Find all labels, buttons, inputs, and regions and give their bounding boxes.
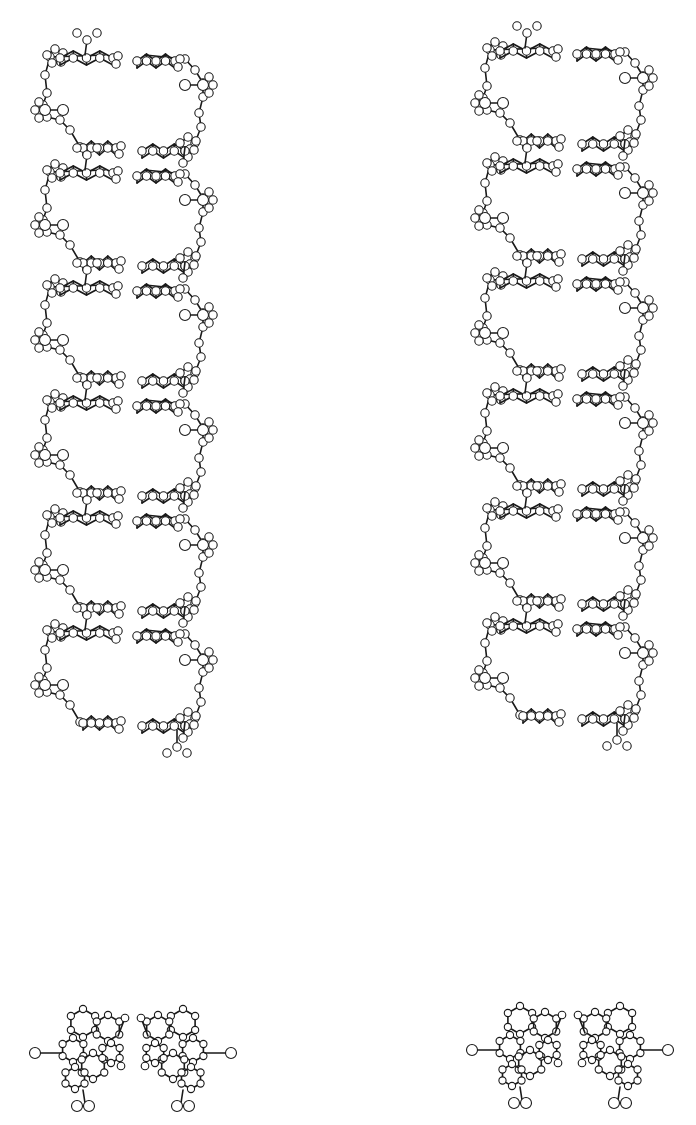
atom: [498, 328, 509, 339]
atom: [637, 1037, 644, 1044]
atom: [115, 610, 123, 618]
atom: [149, 722, 157, 730]
atom: [506, 694, 514, 702]
atom: [142, 632, 150, 640]
atom: [624, 701, 632, 709]
atom: [498, 673, 509, 684]
atom: [509, 277, 517, 285]
atom: [601, 280, 609, 288]
atom: [152, 172, 160, 180]
atom: [620, 73, 631, 84]
atom: [634, 1077, 641, 1084]
atom: [513, 597, 521, 605]
atom: [158, 1069, 165, 1076]
atom: [573, 625, 581, 633]
atom: [554, 620, 562, 628]
atom: [516, 1002, 523, 1009]
atom: [195, 339, 203, 347]
atom: [43, 511, 51, 519]
atom: [637, 231, 645, 239]
atom: [117, 487, 125, 495]
atom: [99, 1044, 106, 1051]
atom: [56, 691, 64, 699]
atom: [73, 144, 81, 152]
atom: [475, 666, 483, 674]
atom: [616, 163, 624, 171]
atom: [481, 409, 489, 417]
atom: [41, 301, 49, 309]
atom: [114, 282, 122, 290]
atom: [58, 335, 69, 346]
atom: [589, 140, 597, 148]
atom: [56, 169, 64, 177]
atom: [536, 162, 544, 170]
atom: [138, 492, 146, 500]
atom: [163, 749, 171, 757]
atom: [104, 489, 112, 497]
atom: [635, 102, 643, 110]
atom: [589, 485, 597, 493]
atom: [614, 56, 622, 64]
atom: [597, 1051, 604, 1058]
atom: [649, 304, 657, 312]
atom: [592, 50, 600, 58]
atom: [43, 396, 51, 404]
atom: [475, 206, 483, 214]
atom: [589, 715, 597, 723]
atom: [610, 715, 618, 723]
atom: [533, 482, 541, 490]
atom: [496, 224, 504, 232]
atom: [624, 356, 632, 364]
atom: [592, 280, 600, 288]
left-helix-end-view: [30, 1005, 237, 1111]
atom: [35, 213, 43, 221]
atom: [205, 418, 213, 426]
atom: [176, 400, 184, 408]
atom: [67, 1012, 74, 1019]
atom: [197, 698, 205, 706]
atom: [209, 311, 217, 319]
atom: [62, 1080, 69, 1087]
atom: [483, 274, 491, 282]
atom: [161, 172, 169, 180]
atom: [592, 165, 600, 173]
atom: [41, 646, 49, 654]
atom: [82, 284, 90, 292]
atom: [160, 1044, 167, 1051]
atom: [48, 59, 56, 67]
atom: [603, 1028, 610, 1035]
atom: [56, 514, 64, 522]
atom: [43, 89, 51, 97]
atom: [56, 399, 64, 407]
atom: [96, 284, 104, 292]
atom: [152, 402, 160, 410]
atom: [190, 606, 198, 614]
atom: [179, 274, 187, 282]
atom: [161, 632, 169, 640]
atom: [610, 255, 618, 263]
atom: [491, 383, 499, 391]
atom: [82, 169, 90, 177]
atom: [599, 255, 607, 263]
atom: [619, 152, 627, 160]
atom: [645, 657, 653, 665]
atom: [578, 255, 586, 263]
atom: [580, 1041, 587, 1048]
atom: [582, 165, 590, 173]
atom: [31, 451, 39, 459]
atom: [43, 281, 51, 289]
atom: [51, 620, 59, 628]
atom: [536, 1051, 543, 1058]
atom: [205, 648, 213, 656]
atom: [620, 188, 631, 199]
atom: [624, 471, 632, 479]
atom: [488, 282, 496, 290]
atom: [582, 510, 590, 518]
atom: [573, 50, 581, 58]
atom: [483, 389, 491, 397]
atom: [616, 132, 624, 140]
atom: [553, 1041, 560, 1048]
atom: [59, 1040, 66, 1047]
atom: [557, 135, 565, 143]
atom: [496, 507, 504, 515]
